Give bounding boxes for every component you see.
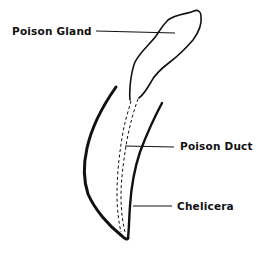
diagram-canvas: Poison Gland Poison Duct Chelicera xyxy=(0,0,262,253)
poison-gland-label: Poison Gland xyxy=(12,26,92,37)
chelicera-label: Chelicera xyxy=(177,201,234,212)
poison-gland-leader xyxy=(96,31,175,33)
poison-duct-label: Poison Duct xyxy=(180,141,253,152)
chelicera-inner-edge xyxy=(128,103,162,238)
chelicera-outer-edge xyxy=(84,87,128,239)
chelicera-illustration xyxy=(0,0,262,253)
poison-gland-outline xyxy=(130,10,201,100)
poison-duct-leader xyxy=(125,146,174,147)
